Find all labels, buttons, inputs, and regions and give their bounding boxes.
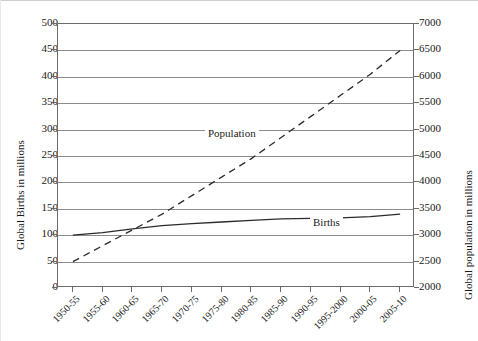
image-left-border [0, 0, 1, 341]
right-axis-tick-label: 4000 [419, 175, 465, 186]
right-axis-tick-label: 6500 [419, 43, 465, 54]
right-axis-tick-label: 7000 [419, 17, 465, 28]
series-lines [58, 24, 415, 288]
chart-container: Global Births in millions Global populat… [0, 0, 478, 341]
series-annotation-population: Population [205, 127, 259, 139]
right-axis-tick-label: 4500 [419, 149, 465, 160]
series-line-births [73, 214, 400, 235]
right-axis-tick-label: 5500 [419, 96, 465, 107]
right-axis-tick-label: 2000 [419, 281, 465, 292]
right-axis-tick-label: 6000 [419, 70, 465, 81]
plot-area [57, 23, 414, 287]
right-axis-tick-label: 3000 [419, 228, 465, 239]
right-axis-tick-label: 5000 [419, 123, 465, 134]
series-annotation-births: Births [310, 216, 343, 228]
right-axis-tick-label: 2500 [419, 255, 465, 266]
left-axis-tick-mark [52, 287, 57, 288]
right-axis-tick-label: 3500 [419, 202, 465, 213]
image-top-border [0, 0, 478, 1]
